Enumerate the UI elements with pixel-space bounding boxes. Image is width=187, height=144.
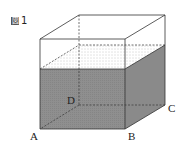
water-front-face (40, 69, 125, 129)
vertex-label-d: D (67, 94, 75, 106)
cube-water-diagram: A B C D (0, 0, 187, 144)
vertex-label-b: B (128, 130, 135, 142)
vertex-label-a: A (30, 130, 38, 142)
vertex-label-c: C (168, 102, 175, 114)
